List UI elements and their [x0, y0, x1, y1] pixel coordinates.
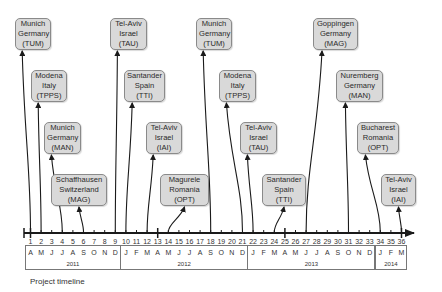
site-city: Tel-Aviv — [243, 123, 274, 133]
site-box: NurembergGermany(MAN) — [336, 70, 383, 102]
year-label: 2013 — [247, 261, 375, 267]
site-city: Magurele — [163, 175, 206, 185]
site-country: Germany — [339, 81, 380, 91]
milestone-arrow — [79, 207, 84, 232]
site-country: Romania — [163, 185, 206, 195]
site-box: MagureleRomania(OPT) — [160, 174, 209, 206]
site-country: Israel — [113, 29, 144, 39]
milestone-arrow — [22, 51, 30, 232]
project-timeline-diagram: MunichGermany(TUM)ModenaItaly(TPPS)Munic… — [0, 0, 442, 292]
site-city: Munich — [18, 19, 48, 29]
site-org: (MAG) — [316, 39, 355, 49]
site-org: (TTI) — [265, 195, 303, 205]
site-box: BucharestRomania(OPT) — [357, 122, 399, 154]
timeline-caption: Project timeline — [30, 277, 85, 286]
milestone-arrow — [274, 207, 284, 232]
year-label: 2014 — [375, 261, 408, 267]
site-country: Spain — [127, 81, 162, 91]
site-box: Tel-AvivIsrael(IAI) — [146, 122, 182, 154]
site-country: Germany — [47, 133, 78, 143]
site-city: Tel-Aviv — [113, 19, 144, 29]
year-label: 2011 — [25, 261, 121, 267]
site-box: MunichGermany(MAN) — [44, 122, 81, 154]
milestone-arrow — [115, 51, 117, 232]
site-org: (TTI) — [127, 91, 162, 101]
site-city: Tel-Aviv — [384, 175, 413, 185]
site-box: Tel-AvivIsrael(TAU) — [110, 18, 147, 50]
site-box: MunichGermany(TUM) — [15, 18, 51, 50]
milestone-arrow — [247, 155, 253, 232]
site-country: Israel — [149, 133, 179, 143]
site-city: Modena — [34, 71, 64, 81]
site-country: Italy — [34, 81, 64, 91]
site-org: (MAN) — [339, 91, 380, 101]
site-country: Romania — [360, 133, 396, 143]
site-org: (MAG) — [54, 195, 104, 205]
milestone-arrow — [226, 103, 242, 232]
site-country: Israel — [243, 133, 274, 143]
milestone-arrow — [38, 103, 41, 232]
month-number: 36 — [396, 238, 408, 245]
site-org: (TAU) — [243, 143, 274, 153]
site-org: (TUM) — [199, 39, 229, 49]
milestone-arrow — [306, 51, 322, 232]
site-city: Nuremberg — [339, 71, 380, 81]
site-city: Munich — [47, 123, 78, 133]
site-org: (OPT) — [163, 195, 206, 205]
site-org: (TPPS) — [222, 91, 253, 101]
site-country: Switzerland — [54, 185, 104, 195]
site-box: ModenaItaly(TPPS) — [31, 70, 67, 102]
site-box: Tel-AvivIsrael(TAU) — [240, 122, 277, 154]
month-letter: M — [396, 249, 408, 256]
site-org: (TPPS) — [34, 91, 64, 101]
site-box: SchaffhausenSwitzerland(MAG) — [51, 174, 107, 206]
site-box: ModenaItaly(TPPS) — [219, 70, 256, 102]
site-city: Modena — [222, 71, 253, 81]
site-city: Munich — [199, 19, 229, 29]
site-org: (TAU) — [113, 39, 144, 49]
site-org: (IAI) — [149, 143, 179, 153]
site-box: Tel-AvivIsrael(IAI) — [381, 174, 416, 206]
site-org: (OPT) — [360, 143, 396, 153]
site-box: GoppingenGermany(MAG) — [313, 18, 358, 50]
milestone-arrow — [365, 155, 380, 232]
site-city: Goppingen — [316, 19, 355, 29]
milestone-arrow — [168, 207, 184, 232]
site-country: Israel — [384, 185, 413, 195]
site-city: Santander — [127, 71, 162, 81]
site-country: Italy — [222, 81, 253, 91]
site-country: Germany — [199, 29, 229, 39]
site-city: Santander — [265, 175, 303, 185]
milestone-arrow — [126, 103, 132, 232]
site-box: MunichGermany(TUM) — [196, 18, 232, 50]
site-city: Tel-Aviv — [149, 123, 179, 133]
milestone-arrow — [147, 155, 153, 232]
site-box: SantanderSpain(TTI) — [262, 174, 306, 206]
site-city: Bucharest — [360, 123, 396, 133]
timeline-axis — [24, 228, 414, 238]
site-box: SantanderSpain(TTI) — [124, 70, 165, 102]
site-org: (TUM) — [18, 39, 48, 49]
site-org: (MAN) — [47, 143, 78, 153]
site-country: Spain — [265, 185, 303, 195]
site-country: Germany — [18, 29, 48, 39]
site-country: Germany — [316, 29, 355, 39]
year-label: 2012 — [120, 261, 248, 267]
milestone-arrow — [345, 103, 348, 232]
site-city: Schaffhausen — [54, 175, 104, 185]
site-org: (IAI) — [384, 195, 413, 205]
